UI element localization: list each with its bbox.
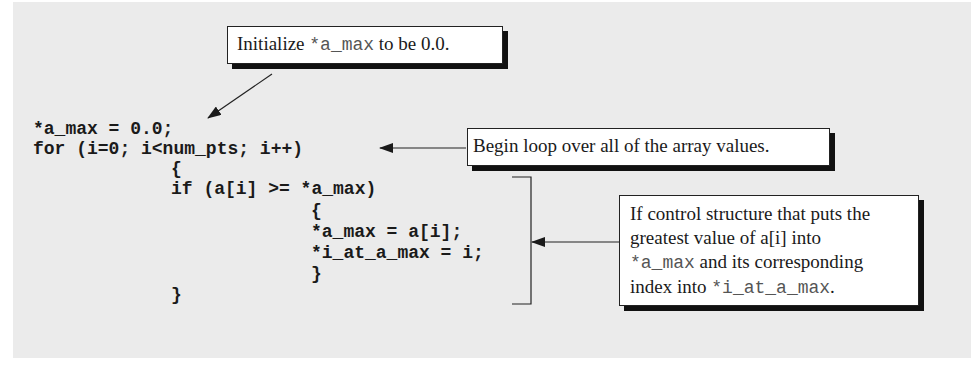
callout-line: index into *i_at_a_max. xyxy=(630,275,918,300)
callout-text: greatest value of a[i] into xyxy=(630,227,821,248)
arrow-init xyxy=(208,74,272,118)
callout-text: to be 0.0. xyxy=(374,33,449,54)
callout-text: Begin loop over all of the array values. xyxy=(473,135,770,156)
callout-text: index into xyxy=(630,276,711,297)
callout-begin-loop: Begin loop over all of the array values. xyxy=(467,128,830,166)
callout-line: *a_max and its corresponding xyxy=(630,250,918,275)
callout-initialize: Initialize *a_max to be 0.0. xyxy=(227,26,503,64)
callout-line: greatest value of a[i] into xyxy=(630,226,918,250)
callout-line: If control structure that puts the xyxy=(630,202,918,226)
callout-if-structure: If control structure that puts the great… xyxy=(619,195,919,306)
callout-code-text: *a_max xyxy=(630,253,695,273)
callout-text: Initialize xyxy=(237,33,309,54)
callout-text: . xyxy=(830,276,835,297)
callout-code-text: *a_max xyxy=(309,35,374,55)
if-block-bracket xyxy=(512,177,531,304)
callout-text: If control structure that puts the xyxy=(630,203,870,224)
callout-code-text: *i_at_a_max xyxy=(711,278,830,298)
callout-text: and its corresponding xyxy=(695,251,863,272)
